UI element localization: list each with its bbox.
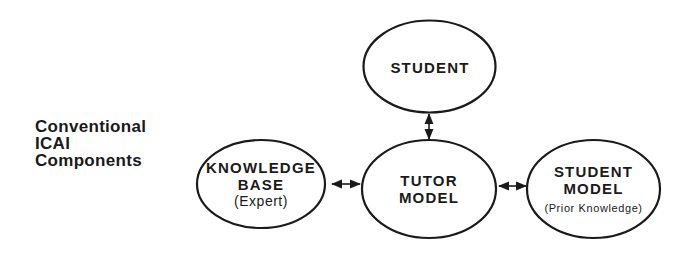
student-model-sub-label: (Prior Knowledge): [544, 200, 642, 216]
tutor-model-node: TUTOR MODEL: [362, 140, 496, 238]
knowledge-base-sub-label: (Expert): [234, 193, 288, 209]
knowledge-base-node: KNOWLEDGE BASE (Expert): [197, 140, 325, 228]
student-model-label-line-2: MODEL: [563, 180, 623, 197]
student-model-node: STUDENT MODEL (Prior Knowledge): [527, 140, 660, 238]
tutor-model-label-line-2: MODEL: [399, 189, 459, 206]
student-node-label: STUDENT: [390, 59, 469, 76]
student-node: STUDENT: [364, 21, 496, 113]
knowledge-base-label-line-1: KNOWLEDGE: [206, 159, 316, 176]
knowledge-base-label-line-2: BASE: [238, 176, 284, 193]
tutor-model-label-line-1: TUTOR: [400, 172, 457, 189]
student-model-label-line-1: STUDENT: [554, 163, 633, 180]
